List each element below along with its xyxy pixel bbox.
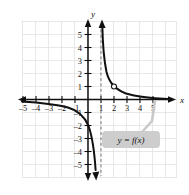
y-tick-label--3: –3: [73, 135, 82, 144]
y-tick-label-1: 1: [78, 83, 82, 92]
callout-label: y = f(x): [116, 135, 144, 145]
x-tick-label-2: 2: [112, 104, 116, 113]
y-tick-label-5: 5: [78, 31, 82, 40]
x-tick-label--5: –5: [18, 104, 27, 113]
y-tick-label--4: –4: [73, 148, 83, 157]
y-tick-label--2: –2: [73, 122, 82, 131]
y-tick-label-2: 2: [78, 70, 82, 79]
open-circle-hole: [112, 84, 117, 89]
x-tick-label--4: –4: [31, 104, 41, 113]
x-tick-label-3: 3: [125, 104, 129, 113]
function-graph-figure: –5 –4 –3 –2 –1 1 2 3 4 5 5 4 3 2 1 –1 –2…: [0, 0, 189, 195]
y-tick-label-3: 3: [78, 57, 82, 66]
y-tick-label--5: –5: [73, 161, 82, 170]
graph-canvas: –5 –4 –3 –2 –1 1 2 3 4 5 5 4 3 2 1 –1 –2…: [0, 0, 189, 195]
